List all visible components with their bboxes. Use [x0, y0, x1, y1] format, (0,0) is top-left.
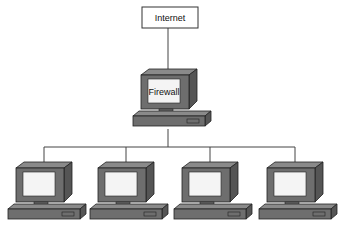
computer-icon — [174, 162, 252, 219]
client-pc-2 — [90, 162, 168, 219]
computer-icon — [90, 162, 168, 219]
client-pc-3 — [174, 162, 252, 219]
computer-icon — [8, 162, 86, 219]
internet-label: Internet — [155, 13, 186, 23]
client-pc-1 — [8, 162, 86, 219]
internet-node: Internet — [142, 7, 198, 28]
computer-icon — [133, 69, 211, 126]
firewall-label: Firewall — [148, 87, 179, 97]
computer-icon — [259, 162, 337, 219]
network-diagram: Internet Firewall — [0, 0, 341, 232]
firewall-node: Firewall — [133, 69, 211, 126]
client-pc-4 — [259, 162, 337, 219]
